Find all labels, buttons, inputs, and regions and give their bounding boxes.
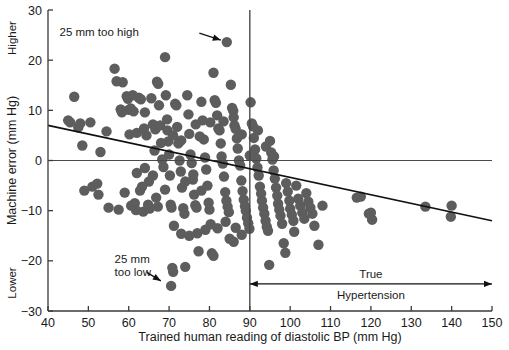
data-point [77,140,87,150]
data-point [279,238,289,248]
x-tick-label: 60 [122,316,136,330]
data-point [204,204,214,214]
true-hypertension-range-annotation: True Hypertension [250,268,492,301]
data-point [160,184,170,194]
data-point [191,202,201,212]
data-point [186,158,196,168]
too-low-annotation-label-line1: 25 mm [115,253,150,265]
data-point [168,267,178,277]
y-axis-ticks [48,10,53,311]
true-hypertension-label-line2: Hypertension [337,289,405,301]
data-point [128,106,138,116]
data-point [253,125,263,135]
data-point [153,201,163,211]
data-point [307,208,317,218]
data-point [205,117,215,127]
chart-canvas: 405060708090100110120130140150 −30−20−10… [0,0,509,350]
x-axis-title: Trained human reading of diastolic BP (m… [138,330,401,344]
data-point [367,214,377,224]
data-point [291,180,301,190]
data-point [176,135,186,145]
data-point [236,175,246,185]
data-point [208,251,218,261]
data-point [140,107,150,117]
data-point [150,124,160,134]
data-point [277,219,287,229]
data-point [148,170,158,180]
data-point [199,134,209,144]
data-point [446,200,456,210]
y-tick-label: 20 [28,54,42,68]
data-point [139,123,149,133]
data-point [180,262,190,272]
y-axis-higher-label: Higher [6,21,18,55]
data-point [151,192,161,202]
data-point [200,152,210,162]
data-point [166,281,176,291]
data-point [191,119,201,129]
data-point [216,138,226,148]
data-point [169,221,179,231]
x-tick-label: 40 [41,316,55,330]
data-point [219,171,229,181]
data-point [280,248,290,258]
data-point [92,178,102,188]
data-point [158,162,168,172]
data-point [135,185,145,195]
data-point [184,231,194,241]
data-point [317,200,327,210]
data-point [154,100,164,110]
data-point [95,147,105,157]
x-tick-label: 130 [401,316,422,330]
data-point [220,217,230,227]
data-point [136,94,146,104]
x-tick-label: 90 [243,316,257,330]
data-point [237,129,247,139]
data-point [224,207,234,217]
data-point [113,204,123,214]
y-axis-lower-label: Lower [6,267,18,298]
data-point [132,168,142,178]
data-point [283,186,293,196]
too-low-annotation-label-line2: too low [115,266,152,278]
data-point [166,202,176,212]
data-point [218,116,228,126]
data-point [211,98,221,108]
too-high-annotation-label: 25 mm too high [60,26,139,38]
data-point [171,100,181,110]
data-point [75,118,85,128]
data-point [69,92,79,102]
too-low-annotation: 25 mm too low [115,253,161,281]
x-axis-tick-labels: 405060708090100110120130140150 [41,316,502,330]
data-point [153,79,163,89]
data-point [117,77,127,87]
data-point [188,169,198,179]
y-tick-label: 10 [28,104,42,118]
data-point [212,223,222,233]
y-axis-title: Machine error (mm Hg) [5,96,19,225]
data-point [228,112,238,122]
data-point [183,109,193,119]
x-axis-ticks [48,306,492,311]
data-point [180,176,190,186]
data-point [103,202,113,212]
data-point [109,63,119,73]
data-point [119,187,129,197]
y-tick-label: −30 [21,305,42,319]
x-tick-label: 80 [203,316,217,330]
data-point [184,129,194,139]
y-tick-label: −20 [21,254,42,268]
x-tick-label: 110 [321,316,341,330]
x-tick-label: 100 [280,316,301,330]
too-low-arrowhead-icon [152,274,161,281]
data-point [93,189,103,199]
data-point [196,97,206,107]
diastolic-bp-machine-error-scatter-chart: 405060708090100110120130140150 −30−20−10… [0,0,509,350]
data-point [309,221,319,231]
data-point [161,90,171,100]
data-point [176,166,186,176]
y-tick-label: 0 [35,154,42,168]
data-point [179,208,189,218]
too-high-arrowhead-icon [212,35,221,41]
data-point [101,126,111,136]
